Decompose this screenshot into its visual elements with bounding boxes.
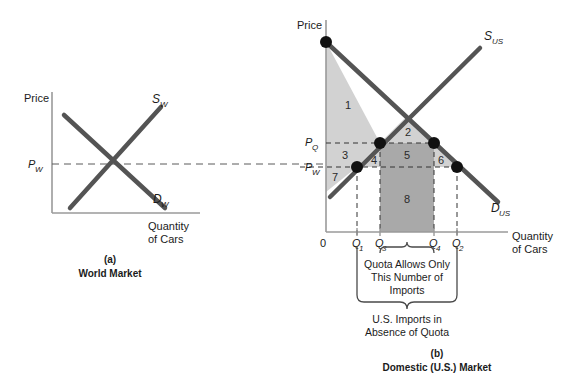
region-label-4: 4	[371, 154, 377, 166]
panel-b-caption-title: Domestic (U.S.) Market	[383, 362, 493, 373]
panel-b-quantity-axis-label-line1: Quantity	[512, 230, 553, 242]
demand-at-world-price-dot	[451, 161, 463, 173]
region-label-6: 6	[438, 154, 444, 166]
panel-a-supply-label: S	[152, 92, 160, 106]
supply-at-world-price-dot	[351, 161, 363, 173]
quota-brace-text-line2: This Number of	[371, 271, 443, 283]
region-label-3: 3	[342, 149, 348, 161]
demand-intercept-dot	[320, 36, 332, 48]
q3-tick-subscript: 3	[382, 244, 387, 253]
quota-price-subscript: Q	[312, 143, 318, 152]
panel-b-demand-subscript: US	[499, 209, 511, 218]
imports-brace-text-line2: Absence of Quota	[365, 326, 449, 338]
panel-a-supply-subscript: W	[160, 100, 169, 109]
panel-b-price-axis-label: Price	[297, 19, 322, 31]
quota-brace-text-line3: Imports	[389, 284, 424, 296]
panel-a-price-axis-label: Price	[24, 92, 49, 104]
panel-b-world-price-subscript: W	[312, 168, 321, 177]
panel-b-supply-subscript: US	[492, 37, 504, 46]
q4-tick-subscript: 4	[436, 244, 441, 253]
panel-a-quantity-axis-label-line1: Quantity	[148, 220, 189, 232]
panel-b-caption-letter: (b)	[431, 348, 444, 359]
q2-tick-subscript: 2	[458, 244, 464, 253]
panel-a-quantity-axis-label-line2: of Cars	[148, 233, 184, 245]
region-label-1: 1	[345, 99, 351, 111]
region-label-2: 2	[405, 126, 411, 138]
demand-at-quota-price-dot	[428, 137, 440, 149]
panel-a-world-market: Price P W S W D W Quantity of Cars (a) W…	[24, 92, 330, 279]
import-quota-figure: Price P W S W D W Quantity of Cars (a) W…	[0, 0, 565, 381]
imports-brace-text-line1: U.S. Imports in	[372, 313, 442, 325]
panel-b-origin-label: 0	[320, 237, 326, 249]
quota-span-brace	[380, 242, 434, 253]
supply-at-quota-price-dot	[374, 137, 386, 149]
panel-a-demand-subscript: W	[161, 200, 170, 209]
panel-a-caption-title: World Market	[78, 268, 142, 279]
region-label-5: 5	[404, 149, 410, 161]
shaded-region-1	[326, 42, 380, 143]
quota-brace-text-line1: Quota Allows Only	[364, 258, 451, 270]
region-label-8: 8	[404, 193, 410, 205]
panel-b-quantity-axis-label-line2: of Cars	[512, 243, 548, 255]
panel-b-domestic-market: 1 2 3 4 5 6 7 8 Price P Q P W S US D US …	[297, 19, 553, 373]
panel-a-world-price-subscript: W	[35, 165, 44, 174]
region-label-7: 7	[332, 171, 338, 183]
q1-tick-subscript: 1	[359, 244, 363, 253]
panel-b-supply-label: S	[484, 29, 492, 43]
panel-a-caption-letter: (a)	[104, 254, 116, 265]
